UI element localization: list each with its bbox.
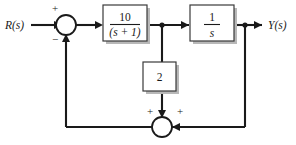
inner-summer-sign-right: + xyxy=(177,105,183,117)
arrowhead-output xyxy=(254,21,262,29)
inner-summer-sign-left: + xyxy=(147,105,153,117)
input-signal-label: R(s) xyxy=(4,19,24,32)
input-summer-sign-positive: + xyxy=(52,2,58,14)
inner-summer xyxy=(152,117,172,137)
arrowhead-plant-input xyxy=(95,21,103,29)
integrator-denominator: s xyxy=(210,27,215,39)
plant-numerator: 10 xyxy=(119,11,131,23)
arrowhead-integrator-input xyxy=(181,21,189,29)
input-summer xyxy=(56,15,76,35)
integrator-numerator: 1 xyxy=(209,11,215,23)
input-summer-sign-negative: − xyxy=(52,33,58,45)
block-diagram-container: 10 (s + 1) 1 s 2 + − + + R(s) Y(s) xyxy=(0,0,296,145)
plant-denominator: (s + 1) xyxy=(109,26,141,39)
arrowhead-inner-summer-right xyxy=(172,123,180,131)
control-block-diagram: 10 (s + 1) 1 s 2 + − + + R(s) Y(s) xyxy=(0,0,296,145)
output-signal-label: Y(s) xyxy=(268,19,287,32)
gain-value: 2 xyxy=(157,71,163,83)
